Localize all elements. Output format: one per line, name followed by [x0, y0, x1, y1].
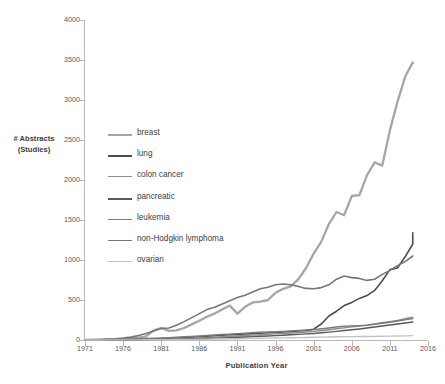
series-line-non-hodgkin-lymphoma [85, 256, 413, 340]
legend-label: non-Hodgkin lymphoma [137, 234, 223, 243]
legend-label: leukemia [137, 213, 170, 222]
legend-swatch [108, 176, 132, 177]
series-line-breast [85, 62, 413, 339]
legend-label: breast [137, 128, 160, 137]
legend-swatch [108, 261, 132, 262]
legend-swatch [108, 240, 132, 241]
plot-area [0, 0, 445, 384]
series-line-lung [85, 233, 413, 340]
legend-swatch [108, 198, 132, 200]
legend-swatch [108, 219, 132, 220]
x-axis-title: Publication Year [85, 361, 428, 370]
legend-label: ovarian [137, 255, 164, 264]
legend-label: lung [137, 149, 152, 158]
chart-figure: # Abstracts (Studies) 050010001500200025… [0, 0, 445, 384]
legend-label: colon cancer [137, 170, 183, 179]
legend-swatch [108, 155, 132, 157]
legend-label: pancreatic [137, 192, 175, 201]
legend-swatch [108, 134, 132, 136]
